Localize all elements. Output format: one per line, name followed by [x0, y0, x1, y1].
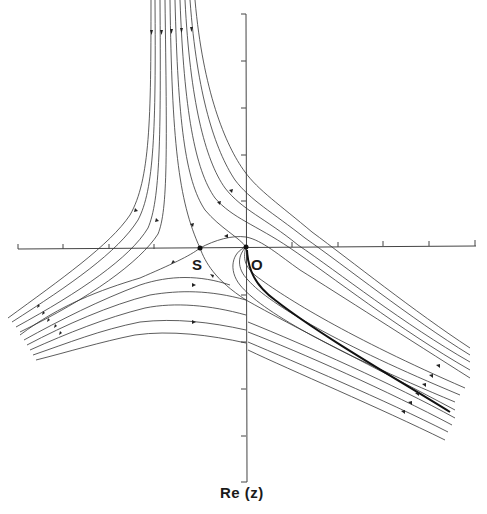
flow-lines-lower: [20, 278, 455, 441]
direction-arrows: [37, 27, 440, 414]
origin-point-label: O: [251, 256, 263, 273]
saddle-point-label: S: [192, 256, 202, 273]
phase-portrait: [0, 0, 487, 514]
flow-lines-near-origin: [140, 237, 470, 410]
saddle-point-s: [198, 246, 203, 251]
critical-point-o: [244, 245, 249, 250]
flow-lines-upper-right: [170, 0, 470, 370]
axis-label: Re (z): [220, 484, 264, 501]
flow-lines-upper-left: [8, 0, 166, 332]
